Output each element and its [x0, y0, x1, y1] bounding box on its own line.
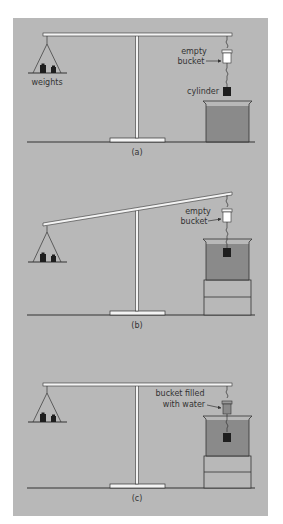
- balance-post: [136, 385, 139, 484]
- panel-caption: (c): [132, 494, 143, 503]
- empty-bucket: [223, 53, 231, 63]
- weight-small: [51, 67, 56, 73]
- bucket-label-line1: bucket filled: [156, 389, 205, 398]
- cylinder: [223, 433, 231, 442]
- bucket-label-line2: bucket: [181, 217, 208, 226]
- weights-label: weights: [31, 78, 62, 87]
- bucket-label-line1: empty: [185, 207, 211, 216]
- beaker-stand: [204, 456, 251, 488]
- bucket-label-line1: empty: [181, 47, 207, 56]
- archimedes-balance-diagram: weights empty bucket cylinder (a): [0, 0, 283, 524]
- water-filled-bucket: [223, 404, 231, 414]
- cylinder: [223, 87, 231, 96]
- bucket-label-line2: with water: [163, 400, 206, 409]
- balance-beam: [43, 383, 232, 386]
- balance-post: [136, 35, 139, 138]
- weight-small: [51, 416, 56, 422]
- balance-base: [110, 311, 165, 315]
- beaker-stand: [204, 280, 251, 315]
- bucket-lid: [222, 401, 232, 404]
- cylinder-label: cylinder: [187, 87, 220, 96]
- panel-caption: (a): [131, 148, 142, 157]
- panel-caption: (b): [131, 321, 142, 330]
- weight-large: [40, 65, 46, 73]
- balance-beam: [43, 33, 232, 36]
- weight-small: [51, 256, 56, 262]
- balance-base: [110, 138, 165, 142]
- weight-large: [40, 254, 46, 262]
- cylinder: [223, 248, 231, 257]
- balance-base: [110, 484, 165, 488]
- bucket-lid: [222, 209, 232, 212]
- weight-large: [40, 414, 46, 422]
- empty-bucket: [223, 212, 231, 222]
- bucket-label-line2: bucket: [178, 57, 205, 66]
- balance-post: [136, 209, 139, 311]
- bucket-lid: [222, 50, 232, 53]
- beaker: [203, 101, 252, 142]
- beaker: [203, 239, 252, 280]
